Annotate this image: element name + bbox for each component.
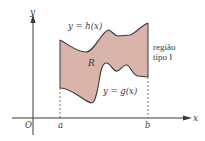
b-label: b xyxy=(145,120,150,130)
origin-label: O xyxy=(25,120,32,130)
region-caption-line2: tipo I xyxy=(153,52,172,62)
region-caption-line1: região xyxy=(153,42,176,52)
region-label: R xyxy=(87,58,95,68)
a-label: a xyxy=(58,120,63,130)
x-axis-label: x xyxy=(193,113,198,123)
lower-curve-label: y = g(x) xyxy=(102,86,137,96)
y-axis-label: y xyxy=(29,7,36,17)
region-diagram: y x O a b y = h(x) y = g(x) R região tip… xyxy=(0,0,205,141)
x-axis-arrow-icon xyxy=(183,116,192,121)
upper-curve-label: y = h(x) xyxy=(67,21,102,31)
